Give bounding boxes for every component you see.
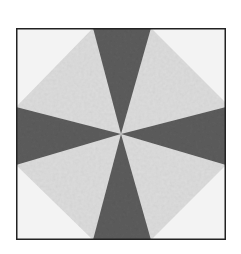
quilt-block-graphic xyxy=(16,28,226,240)
quilt-block xyxy=(16,28,226,240)
